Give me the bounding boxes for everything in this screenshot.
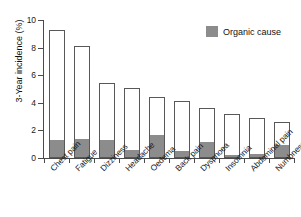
y-axis-tick-label: 6 — [2, 70, 36, 80]
plot-area — [44, 20, 294, 158]
y-axis-tick — [38, 48, 43, 49]
x-axis-tick — [119, 159, 120, 163]
y-axis-tick-label: 0 — [2, 153, 36, 163]
legend-label-organic-cause: Organic cause — [223, 27, 281, 37]
x-axis-tick — [94, 159, 95, 163]
x-axis-tick — [269, 159, 270, 163]
x-axis-tick — [69, 159, 70, 163]
y-axis-tick — [38, 103, 43, 104]
bar — [99, 83, 115, 158]
y-axis-tick — [38, 20, 43, 21]
x-axis-tick — [244, 159, 245, 163]
legend-swatch-organic-cause — [206, 26, 218, 37]
bar-chart: 3-Year incidence (%) 0246810 Chest painF… — [0, 0, 301, 217]
x-axis-tick — [194, 159, 195, 163]
y-axis-tick — [38, 75, 43, 76]
x-axis-tick — [219, 159, 220, 163]
y-axis-tick-labels: 0246810 — [0, 0, 36, 217]
y-axis-tick-label: 10 — [2, 15, 36, 25]
y-axis-tick — [38, 158, 43, 159]
x-axis-tick — [294, 159, 295, 163]
x-axis-tick — [44, 159, 45, 163]
x-axis-tick — [169, 159, 170, 163]
y-axis-tick-label: 4 — [2, 98, 36, 108]
y-axis-tick-label: 8 — [2, 43, 36, 53]
bar — [49, 30, 65, 158]
y-axis-tick — [38, 130, 43, 131]
x-axis-tick — [144, 159, 145, 163]
y-axis-tick-label: 2 — [2, 125, 36, 135]
legend: Organic cause — [206, 26, 281, 37]
